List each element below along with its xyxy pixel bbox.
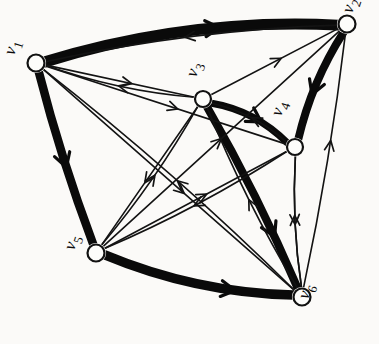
vertex-label-text: v2 bbox=[338, 0, 365, 16]
vertex-label-subscript: 1 bbox=[10, 40, 26, 51]
edge-line bbox=[43, 69, 295, 291]
vertex-label-v1: v1 bbox=[0, 37, 26, 58]
vertex-label-text: v5 bbox=[60, 232, 87, 253]
edge-layer bbox=[39, 21, 346, 297]
edge-line bbox=[45, 65, 195, 97]
vertex-label-v2: v2 bbox=[338, 0, 365, 16]
graph-canvas: v1v2v3v4v5v6 bbox=[0, 0, 379, 344]
node-v5[interactable] bbox=[88, 245, 105, 262]
node-v1[interactable] bbox=[28, 55, 45, 72]
directed-graph-svg: v1v2v3v4v5v6 bbox=[0, 0, 379, 344]
vertex-label-subscript: 6 bbox=[304, 283, 320, 294]
node-v4[interactable] bbox=[287, 139, 303, 155]
edge-line bbox=[39, 72, 94, 245]
node-v2[interactable] bbox=[339, 16, 356, 33]
node-v3[interactable] bbox=[195, 91, 211, 107]
edge-v1-to-v4 bbox=[45, 66, 287, 145]
edge-arrowhead bbox=[145, 175, 155, 186]
vertex-label-v3: v3 bbox=[182, 59, 209, 80]
vertex-label-subscript: 5 bbox=[70, 235, 86, 246]
edge-v1-to-v5 bbox=[39, 72, 94, 245]
vertex-label-v5: v5 bbox=[60, 232, 87, 253]
vertex-label-text: v3 bbox=[182, 59, 209, 80]
vertex-label-text: v1 bbox=[0, 37, 26, 58]
edge-v5-to-v2 bbox=[103, 30, 341, 247]
vertex-label-subscript: 2 bbox=[348, 0, 364, 8]
edge-line bbox=[45, 24, 338, 62]
vertex-label-v4: v4 bbox=[267, 98, 294, 120]
edge-line bbox=[45, 66, 287, 145]
vertex-label-subscript: 3 bbox=[192, 62, 208, 73]
vertex-label-text: v4 bbox=[267, 98, 294, 120]
edge-v1-to-v6 bbox=[43, 69, 295, 291]
edge-v1-to-v3 bbox=[45, 65, 195, 97]
vertex-label-subscript: 4 bbox=[277, 100, 293, 111]
